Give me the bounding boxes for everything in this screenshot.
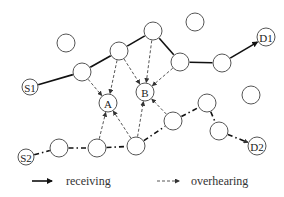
receiving-edge bbox=[189, 62, 212, 63]
node-circle bbox=[210, 122, 228, 140]
node-relay bbox=[50, 139, 68, 157]
overhearing-edge bbox=[124, 59, 140, 84]
receiving-edge bbox=[127, 36, 145, 46]
node-relay bbox=[198, 94, 216, 112]
node-label: B bbox=[141, 87, 148, 99]
node-circle bbox=[127, 137, 145, 155]
network-diagram: S1D1ABS2D2 receiving overhearing bbox=[0, 0, 284, 197]
node-relay bbox=[242, 86, 260, 104]
node-circle bbox=[57, 34, 75, 52]
node-circle bbox=[88, 139, 106, 157]
node-circle bbox=[144, 22, 162, 40]
node-relay bbox=[164, 112, 182, 130]
overhearing-edge bbox=[99, 113, 105, 139]
legend: receiving overhearing bbox=[32, 174, 248, 188]
receiving-edge bbox=[230, 42, 257, 58]
node-label: S1 bbox=[24, 82, 36, 94]
node-circle bbox=[164, 112, 182, 130]
node-label: D2 bbox=[250, 141, 263, 153]
node-label: S2 bbox=[20, 152, 32, 164]
node-relay bbox=[186, 13, 204, 31]
overhearing-edge bbox=[110, 60, 117, 93]
node-relay bbox=[171, 53, 189, 71]
node-circle bbox=[186, 13, 204, 31]
legend-receiving-label: receiving bbox=[66, 174, 111, 188]
receiving-edge-path2 bbox=[34, 150, 50, 154]
node-a: A bbox=[99, 94, 117, 112]
nodes-layer: S1D1ABS2D2 bbox=[18, 13, 275, 165]
receiving-edge-path2 bbox=[144, 126, 165, 140]
receiving-edge-path2 bbox=[211, 112, 216, 123]
node-label: A bbox=[104, 98, 112, 110]
node-s1: S1 bbox=[22, 79, 38, 95]
receiving-edge-path2 bbox=[181, 107, 198, 116]
legend-overhearing: overhearing bbox=[157, 174, 248, 188]
overhearing-edge bbox=[88, 79, 101, 95]
legend-receiving: receiving bbox=[32, 174, 111, 188]
overhearing-edge bbox=[113, 111, 130, 138]
node-relay bbox=[57, 34, 75, 52]
node-relay bbox=[127, 137, 145, 155]
overhearing-edge bbox=[153, 68, 173, 85]
node-circle bbox=[198, 94, 216, 112]
overhearing-edge bbox=[146, 40, 151, 82]
node-relay bbox=[144, 22, 162, 40]
node-circle bbox=[73, 63, 91, 81]
node-circle bbox=[50, 139, 68, 157]
legend-overhearing-label: overhearing bbox=[191, 174, 248, 188]
overhearing-edge bbox=[152, 99, 166, 114]
node-relay bbox=[213, 54, 231, 72]
node-b: B bbox=[136, 83, 154, 101]
node-label: D1 bbox=[259, 32, 272, 44]
receiving-edge bbox=[159, 38, 174, 55]
receiving-edge-path2 bbox=[228, 134, 248, 142]
overhearing-edge bbox=[138, 102, 144, 137]
receiving-edge bbox=[38, 75, 73, 85]
node-circle bbox=[110, 42, 128, 60]
node-relay bbox=[73, 63, 91, 81]
node-relay bbox=[210, 122, 228, 140]
node-d1: D1 bbox=[257, 28, 275, 46]
node-s2: S2 bbox=[18, 149, 34, 165]
node-d2: D2 bbox=[248, 137, 266, 155]
node-circle bbox=[242, 86, 260, 104]
node-relay bbox=[88, 139, 106, 157]
node-relay bbox=[110, 42, 128, 60]
node-circle bbox=[213, 54, 231, 72]
receiving-edge-path2 bbox=[106, 146, 126, 147]
node-circle bbox=[171, 53, 189, 71]
receiving-edge bbox=[90, 56, 110, 68]
